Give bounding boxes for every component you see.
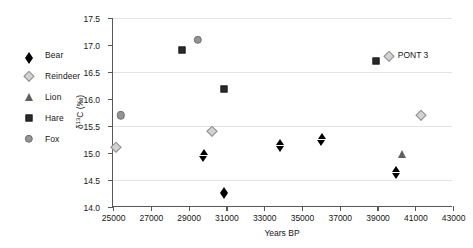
annotations-layer: PONT 3	[113, 18, 452, 206]
legend-item-label: Lion	[45, 92, 61, 102]
y-axis-tick-label: 14.5	[83, 176, 100, 186]
legend-item-label: Reindeer	[45, 71, 80, 81]
y-axis-tick-label: 16.0	[83, 95, 100, 105]
chart-annotation-pont3: PONT 3	[398, 50, 429, 60]
x-axis-tick-label: 35000	[291, 213, 315, 223]
x-axis-tick: 41000	[415, 206, 416, 211]
y-axis-tick-label: 15.0	[83, 149, 100, 159]
x-axis-tick: 39000	[377, 206, 378, 211]
x-axis-title: Years BP	[112, 228, 452, 238]
triangle-marker-icon	[22, 90, 36, 104]
x-axis-tick-label: 37000	[328, 213, 352, 223]
x-axis-tick-label: 41000	[404, 213, 428, 223]
x-axis-tick-label: 43000	[442, 213, 466, 223]
diamond-open-marker-icon	[22, 69, 36, 83]
x-axis-tick: 31000	[226, 206, 227, 211]
y-axis-title-superscript: 13	[75, 118, 81, 125]
x-axis-tick: 29000	[189, 206, 190, 211]
x-axis-tick-label: 27000	[140, 213, 164, 223]
y-axis-tick-label: 17.0	[83, 41, 100, 51]
x-axis-tick: 33000	[264, 206, 265, 211]
legend-item-label: Fox	[45, 134, 59, 144]
x-axis-tick-label: 39000	[366, 213, 390, 223]
scatter-chart-figure: BearReindeerLionHareFox δ13C (‰) 14.014.…	[0, 0, 473, 248]
y-axis-tick-label: 15.5	[83, 122, 100, 132]
x-axis-tick-label: 31000	[215, 213, 239, 223]
square-marker-icon	[22, 111, 36, 125]
x-axis-tick-label: 33000	[253, 213, 277, 223]
circle-marker-icon	[22, 132, 36, 146]
y-axis-tick-label: 17.5	[83, 14, 100, 24]
y-axis-tick-label: 16.5	[83, 68, 100, 78]
x-axis-tick: 35000	[302, 206, 303, 211]
x-axis-tick-label: 25000	[102, 213, 126, 223]
x-axis-tick: 25000	[113, 206, 114, 211]
legend-item-label: Hare	[45, 113, 64, 123]
y-axis-tick-label: 14.0	[83, 203, 100, 213]
x-axis-tick: 27000	[151, 206, 152, 211]
legend-item-label: Bear	[45, 50, 63, 60]
x-axis-tick-label: 29000	[177, 213, 201, 223]
plot-area: 14.014.515.015.516.016.517.017.5 2500027…	[112, 18, 452, 207]
x-axis-tick: 37000	[340, 206, 341, 211]
x-axis-tick: 43000	[453, 206, 454, 211]
diamond-filled-marker-icon	[22, 48, 36, 62]
